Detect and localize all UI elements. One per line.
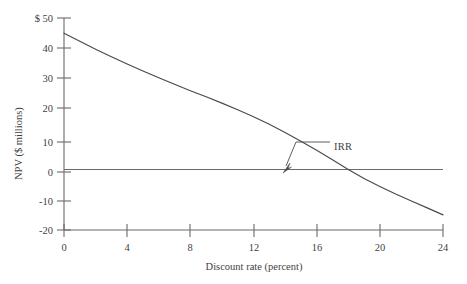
y-tick-label-neg20: -20: [39, 225, 53, 236]
x-tick-label-24: 24: [438, 242, 449, 253]
x-tick-label-0: 0: [61, 242, 66, 253]
irr-leader-diagonal: [286, 142, 296, 166]
chart-canvas: $ 50 40 30 20 10 0 -10 -20 NPV ($ millio…: [0, 0, 467, 284]
x-axis-title: Discount rate (percent): [206, 261, 303, 273]
y-tick-label-0: 0: [48, 167, 53, 178]
y-tick-label-20: 20: [43, 103, 54, 114]
irr-arrowhead-icon: [283, 163, 292, 173]
y-tick-label-neg10: -10: [39, 196, 53, 207]
x-tick-label-16: 16: [312, 242, 323, 253]
npv-curve-line: [64, 33, 443, 215]
x-tick-label-4: 4: [124, 242, 130, 253]
irr-annotation: IRR: [283, 141, 352, 173]
y-tick-label-30: 30: [43, 73, 54, 84]
x-tick-label-8: 8: [187, 242, 192, 253]
y-axis: $ 50 40 30 20 10 0 -10 -20 NPV ($ millio…: [13, 13, 71, 236]
y-tick-label-50: $ 50: [35, 13, 53, 24]
y-tick-label-40: 40: [43, 43, 54, 54]
y-tick-label-10: 10: [43, 137, 54, 148]
x-tick-label-20: 20: [375, 242, 386, 253]
y-axis-title: NPV ($ millions): [13, 107, 25, 180]
irr-label: IRR: [334, 141, 352, 152]
npv-profile-chart: $ 50 40 30 20 10 0 -10 -20 NPV ($ millio…: [0, 0, 467, 284]
x-tick-label-12: 12: [249, 242, 260, 253]
x-axis: 0 4 8 12 16 20 24 Discount rate (percent…: [61, 224, 449, 273]
